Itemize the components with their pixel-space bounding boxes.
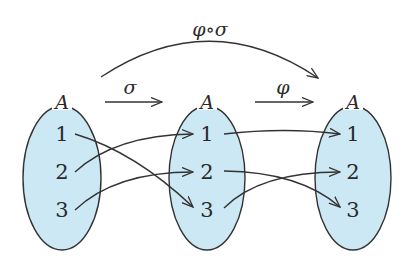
set-left: A 1 2 3 [23,91,101,250]
phi-map-header: φ [255,76,313,102]
sigma-map-header: σ [105,76,162,102]
composition-map: φ∘σ [101,18,318,78]
set-middle-element-3: 3 [200,198,213,222]
set-right-element-1: 1 [346,122,359,146]
composition-arrow [101,41,318,78]
set-middle-element-1: 1 [200,122,213,146]
set-left-element-2: 2 [55,160,68,184]
set-right-label: A [344,91,360,113]
sigma-label: σ [124,76,138,98]
permutation-composition-diagram: A 1 2 3 A 1 2 3 A 1 2 3 φ∘σ σ φ [0,0,408,266]
set-left-element-1: 1 [55,122,68,146]
set-middle-element-2: 2 [200,160,213,184]
set-right-element-2: 2 [346,160,359,184]
composition-label: φ∘σ [192,18,229,40]
set-left-element-3: 3 [55,198,68,222]
set-right-element-3: 3 [346,198,359,222]
set-right: A 1 2 3 [315,91,391,250]
phi-label: φ [276,76,290,98]
set-middle-label: A [198,91,214,113]
set-left-label: A [53,91,69,113]
set-middle: A 1 2 3 [169,91,245,250]
